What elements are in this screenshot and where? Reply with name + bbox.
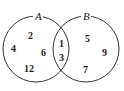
- element-5: 5: [85, 33, 90, 44]
- element-2: 2: [28, 30, 33, 41]
- venn-svg: A B 2 4 6 12 1 3 5 9 7: [0, 0, 124, 91]
- element-4: 4: [11, 43, 16, 54]
- element-12: 12: [24, 63, 34, 74]
- set-label-b: B: [83, 10, 90, 22]
- element-6: 6: [41, 47, 46, 58]
- element-9: 9: [102, 47, 107, 58]
- element-1: 1: [59, 38, 64, 49]
- element-7: 7: [83, 64, 88, 75]
- set-label-a: A: [34, 10, 42, 22]
- element-3: 3: [59, 52, 64, 63]
- venn-diagram: A B 2 4 6 12 1 3 5 9 7: [0, 0, 124, 91]
